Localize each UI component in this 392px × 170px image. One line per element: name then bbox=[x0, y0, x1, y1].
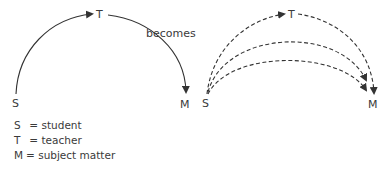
legend-item-teacher: T = teacher bbox=[14, 133, 115, 148]
legend-item-student: S = student bbox=[14, 118, 115, 133]
node-matter-right: M bbox=[368, 99, 378, 110]
dashed-arrow-teacher-to-matter bbox=[298, 14, 374, 93]
node-student-left: S bbox=[12, 98, 19, 109]
dashed-arrow-student-to-teacher bbox=[207, 14, 284, 94]
legend-item-subject-matter: M= subject matter bbox=[14, 148, 115, 163]
legend: S = student T = teacher M= subject matte… bbox=[14, 118, 115, 163]
node-matter-left: M bbox=[180, 99, 190, 110]
arrow-student-to-teacher bbox=[16, 14, 92, 94]
node-teacher-right: T bbox=[288, 9, 295, 20]
node-teacher-left: T bbox=[96, 9, 103, 20]
becomes-label: becomes bbox=[146, 28, 196, 39]
dashed-arrow-student-to-matter-upper bbox=[208, 42, 366, 92]
node-student-right: S bbox=[202, 98, 209, 109]
dashed-arrow-student-to-matter-lower bbox=[208, 60, 366, 94]
